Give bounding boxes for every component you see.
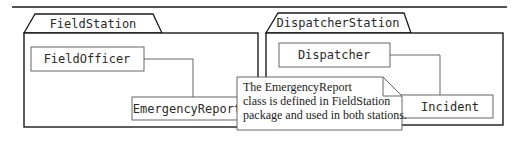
class-emergency-report[interactable]: EmergencyReport bbox=[132, 97, 242, 120]
note-line-2: class is defined in FieldStation bbox=[243, 94, 390, 108]
note-line-1: The EmergencyReport bbox=[243, 80, 352, 94]
note: The EmergencyReport class is defined in … bbox=[237, 77, 407, 130]
class-name: EmergencyReport bbox=[133, 102, 241, 116]
class-name: Incident bbox=[421, 100, 479, 114]
package-name: DispatcherStation bbox=[277, 16, 400, 30]
package-name: FieldStation bbox=[50, 17, 137, 31]
package-field-station: FieldStation FieldOfficer EmergencyRepor… bbox=[24, 14, 258, 127]
class-name: Dispatcher bbox=[298, 48, 370, 62]
class-incident[interactable]: Incident bbox=[400, 95, 493, 118]
class-name: FieldOfficer bbox=[44, 52, 131, 66]
class-field-officer[interactable]: FieldOfficer bbox=[31, 47, 144, 71]
class-dispatcher[interactable]: Dispatcher bbox=[279, 43, 390, 67]
package-diagram: FieldStation FieldOfficer EmergencyRepor… bbox=[0, 0, 523, 142]
note-line-3: package and used in both stations. bbox=[243, 108, 407, 122]
